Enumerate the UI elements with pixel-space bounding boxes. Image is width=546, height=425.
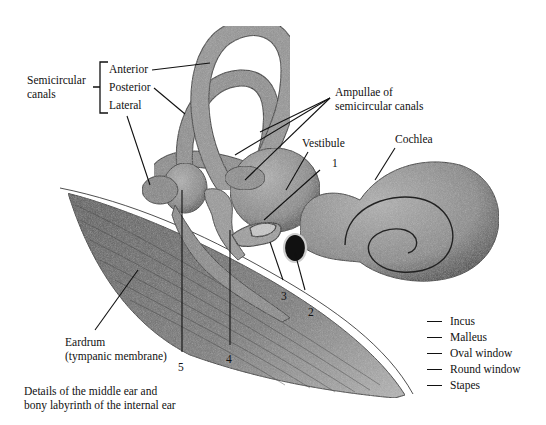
number-label-5: 5 (178, 361, 184, 373)
number-label-2: 2 (308, 306, 314, 318)
answer-key-item: Round window (427, 362, 521, 376)
answer-key-term: Stapes (450, 379, 480, 391)
label-vestibule: Vestibule (302, 136, 345, 150)
answer-key-item: Malleus (427, 330, 487, 344)
label-eardrum-line2: (tympanic membrane) (65, 349, 167, 363)
answer-key-term: Round window (450, 363, 521, 375)
label-lateral: Lateral (109, 98, 142, 112)
cochlea-shape (300, 162, 499, 281)
answer-key-term: Oval window (450, 347, 512, 359)
number-label-1: 1 (332, 157, 338, 169)
lateral-bulge-shape (142, 176, 178, 204)
label-eardrum-line1: Eardrum (65, 335, 167, 349)
answer-key-item: Oval window (427, 346, 512, 360)
answer-key-item: Incus (427, 314, 475, 328)
answer-blank[interactable] (427, 353, 442, 354)
label-semicircular-canals-line1: Semicircular (27, 73, 86, 87)
label-semicircular-canals: Semicircular canals (27, 73, 86, 101)
figure-caption-line1: Details of the middle ear and (24, 384, 176, 398)
answer-blank[interactable] (427, 321, 442, 322)
answer-blank[interactable] (427, 369, 442, 370)
figure-caption: Details of the middle ear and bony labyr… (24, 384, 176, 412)
label-eardrum: Eardrum (tympanic membrane) (65, 335, 167, 363)
label-ampullae-line2: semicircular canals (335, 99, 423, 113)
number-label-3: 3 (281, 290, 287, 302)
round-window-shape (284, 234, 306, 262)
answer-blank[interactable] (427, 337, 442, 338)
answer-key-item: Stapes (427, 378, 480, 392)
canals-bracket (93, 62, 108, 113)
number-label-4: 4 (226, 353, 232, 365)
ampulla-shape (225, 166, 265, 190)
answer-blank[interactable] (427, 385, 442, 386)
label-ampullae-line1: Ampullae of (335, 85, 423, 99)
answer-key-term: Malleus (450, 331, 487, 343)
figure-caption-line2: bony labyrinth of the internal ear (24, 398, 176, 412)
label-cochlea: Cochlea (395, 132, 433, 146)
label-semicircular-canals-line2: canals (27, 87, 86, 101)
label-posterior: Posterior (109, 80, 151, 94)
label-anterior: Anterior (109, 62, 148, 76)
answer-key-term: Incus (450, 315, 475, 327)
label-ampullae: Ampullae of semicircular canals (335, 85, 423, 113)
